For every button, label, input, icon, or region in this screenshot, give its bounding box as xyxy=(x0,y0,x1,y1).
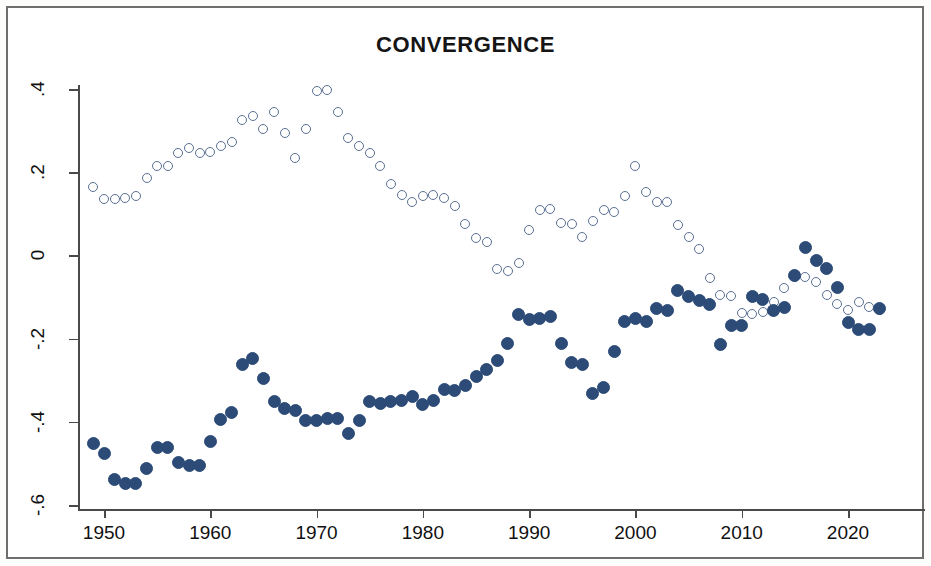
data-point-filled xyxy=(820,262,833,275)
data-point-hollow xyxy=(248,111,258,121)
x-axis-tick xyxy=(104,509,106,518)
data-point-hollow xyxy=(545,204,555,214)
x-axis-tick xyxy=(742,509,744,518)
data-point-hollow xyxy=(142,173,152,183)
data-point-filled xyxy=(608,345,621,358)
x-axis-tick xyxy=(635,509,637,518)
data-point-hollow xyxy=(227,137,237,147)
data-point-filled xyxy=(98,447,111,460)
y-axis-tick-label: -.2 xyxy=(25,309,51,369)
data-point-hollow xyxy=(620,191,630,201)
data-point-hollow xyxy=(556,218,566,228)
data-point-filled xyxy=(799,241,812,254)
x-axis-tick-label: 1960 xyxy=(170,522,250,544)
data-point-hollow xyxy=(418,191,428,201)
x-axis-tick-label: 2020 xyxy=(808,522,888,544)
data-point-filled xyxy=(87,437,100,450)
data-point-filled xyxy=(756,293,769,306)
x-axis-tick-label: 1990 xyxy=(489,522,569,544)
data-point-hollow xyxy=(280,128,290,138)
data-point-hollow xyxy=(237,115,247,125)
y-axis-tick xyxy=(69,172,78,174)
data-point-hollow xyxy=(737,308,747,318)
y-axis-tick-label: -.6 xyxy=(25,475,51,535)
data-point-hollow xyxy=(854,297,864,307)
y-axis-tick xyxy=(69,339,78,341)
data-point-hollow xyxy=(397,190,407,200)
data-point-hollow xyxy=(163,161,173,171)
data-point-hollow xyxy=(428,190,438,200)
data-point-filled xyxy=(459,379,472,392)
data-point-hollow xyxy=(312,86,322,96)
data-point-filled xyxy=(544,310,557,323)
data-point-hollow xyxy=(747,309,757,319)
data-point-hollow xyxy=(407,197,417,207)
data-point-hollow xyxy=(269,107,279,117)
y-axis-tick-label: 0 xyxy=(25,225,51,285)
data-point-hollow xyxy=(694,244,704,254)
x-axis-tick xyxy=(529,509,531,518)
x-axis-tick xyxy=(423,509,425,518)
data-point-hollow xyxy=(662,197,672,207)
data-point-hollow xyxy=(535,205,545,215)
data-point-hollow xyxy=(195,148,205,158)
data-point-hollow xyxy=(514,258,524,268)
y-axis-tick xyxy=(69,255,78,257)
data-point-hollow xyxy=(822,290,832,300)
data-point-filled xyxy=(353,414,366,427)
data-point-filled xyxy=(331,412,344,425)
data-point-filled xyxy=(831,281,844,294)
data-point-hollow xyxy=(343,133,353,143)
data-point-hollow xyxy=(492,264,502,274)
data-point-hollow xyxy=(471,233,481,243)
data-point-filled xyxy=(204,435,217,448)
data-point-filled xyxy=(342,427,355,440)
y-axis-tick-label: -.4 xyxy=(25,392,51,452)
data-point-hollow xyxy=(684,232,694,242)
y-axis-tick xyxy=(69,505,78,507)
y-axis-tick-label: .2 xyxy=(25,142,51,202)
data-point-hollow xyxy=(599,205,609,215)
data-point-hollow xyxy=(577,232,587,242)
data-point-hollow xyxy=(630,161,640,171)
data-point-hollow xyxy=(290,153,300,163)
data-point-hollow xyxy=(450,201,460,211)
data-point-filled xyxy=(193,459,206,472)
data-point-hollow xyxy=(152,161,162,171)
data-point-hollow xyxy=(588,216,598,226)
data-point-hollow xyxy=(726,291,736,301)
data-point-hollow xyxy=(88,182,98,192)
data-point-hollow xyxy=(365,148,375,158)
data-point-hollow xyxy=(216,141,226,151)
data-point-filled xyxy=(703,298,716,311)
y-axis-tick xyxy=(69,422,78,424)
data-point-filled xyxy=(225,406,238,419)
y-axis-tick xyxy=(69,89,78,91)
x-axis-tick xyxy=(317,509,319,518)
data-point-hollow xyxy=(99,194,109,204)
data-point-hollow xyxy=(354,141,364,151)
data-point-filled xyxy=(491,354,504,367)
data-point-hollow xyxy=(843,305,853,315)
data-point-filled xyxy=(640,315,653,328)
x-axis-tick-label: 2000 xyxy=(595,522,675,544)
data-point-hollow xyxy=(811,277,821,287)
x-axis-line xyxy=(78,509,925,511)
data-point-hollow xyxy=(460,219,470,229)
data-point-hollow xyxy=(439,193,449,203)
data-point-filled xyxy=(246,352,259,365)
data-point-hollow xyxy=(120,193,130,203)
data-point-hollow xyxy=(173,148,183,158)
data-point-hollow xyxy=(258,124,268,134)
data-point-hollow xyxy=(673,220,683,230)
data-point-filled xyxy=(597,381,610,394)
x-axis-tick-label: 2010 xyxy=(702,522,782,544)
x-axis-tick xyxy=(848,509,850,518)
plot-area: .4.20-.2-.4-.619501960197019801990200020… xyxy=(0,0,931,566)
data-point-hollow xyxy=(779,283,789,293)
data-point-hollow xyxy=(832,299,842,309)
data-point-filled xyxy=(788,269,801,282)
data-point-hollow xyxy=(482,237,492,247)
data-point-filled xyxy=(257,372,270,385)
data-point-filled xyxy=(555,337,568,350)
